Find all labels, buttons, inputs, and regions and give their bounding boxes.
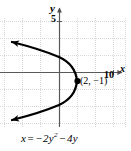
equation-operator: − — [58, 132, 67, 144]
x-axis-label: x — [120, 64, 125, 74]
parabola-graph-figure: y x 5 10 (2, −1) x=−2y2−4y — [0, 0, 131, 151]
parabola-lower-branch — [12, 81, 77, 120]
equation-term2: 4y — [67, 132, 78, 144]
equation-equals: = — [26, 132, 35, 144]
vertex-point-label: (2, −1) — [80, 76, 107, 86]
parabola-upper-branch — [12, 42, 77, 81]
equation-term1-coeff: −2 — [36, 132, 49, 144]
y-tick-label-5: 5 — [51, 14, 56, 24]
equation-label: x=−2y2−4y — [21, 132, 78, 144]
